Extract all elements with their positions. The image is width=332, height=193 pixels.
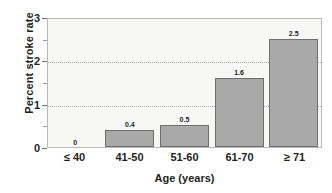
bar-chart-figure: Percent stroke rate 0 1 2 3 0 0.4 [0,0,332,193]
x-tick-label-age-61-70: 61-70 [215,151,265,163]
bar-age-41-50 [105,130,154,147]
y-tick-label-2: 2 [22,55,40,67]
bar-age-61-70 [215,78,264,147]
bar-series: 0 0.4 0.5 1.6 2.5 [48,19,321,147]
x-tick-label-age-41-50: 41-50 [105,151,155,163]
x-tick-label-age-71-or-more: ≥ 71 [270,151,320,163]
bar-value-label: 0.5 [160,116,209,123]
bar-age-71-or-more [269,39,318,147]
bar-slot-age-41-50: 0.4 [105,19,154,147]
y-tick-label-0: 0 [22,142,40,154]
x-axis-tick-labels: ≤ 40 41-50 51-60 61-70 ≥ 71 [47,151,322,163]
bar-slot-age-51-60: 0.5 [160,19,209,147]
x-tick-label-age-51-60: 51-60 [160,151,210,163]
bar-slot-age-61-70: 1.6 [215,19,264,147]
bar-slot-age-71-or-more: 2.5 [269,19,318,147]
y-tick-label-1: 1 [22,99,40,111]
x-tick-label-age-40-or-less: ≤ 40 [50,151,100,163]
y-axis-tick-labels: 0 1 2 3 [22,0,40,193]
bar-value-label: 0 [51,139,100,146]
x-axis-title: Age (years) [47,172,322,184]
y-tick-label-3: 3 [22,12,40,24]
bar-value-label: 1.6 [215,69,264,76]
y-tick-mark-0 [42,148,47,149]
bar-slot-age-40-or-less: 0 [51,19,100,147]
bar-age-51-60 [160,125,209,147]
plot-area: 0 0.4 0.5 1.6 2.5 [47,18,322,148]
bar-value-label: 0.4 [105,121,154,128]
bar-value-label: 2.5 [269,30,318,37]
